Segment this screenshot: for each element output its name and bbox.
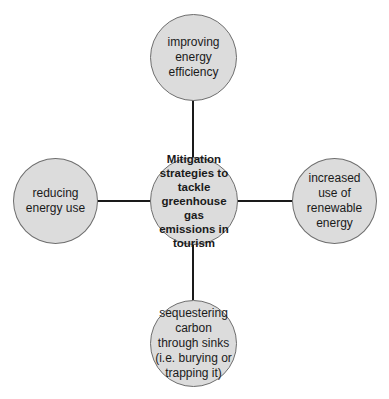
node-increased-renewable-energy: increased use of renewable energy bbox=[292, 158, 377, 244]
node-label: sequestering carbon through sinks (i.e. … bbox=[151, 306, 236, 381]
center-node: Mitigation strategies to tackle greenhou… bbox=[150, 157, 238, 245]
node-improving-energy-efficiency: improving energy efficiency bbox=[150, 14, 237, 101]
node-reducing-energy-use: reducing energy use bbox=[13, 158, 98, 244]
node-label: increased use of renewable energy bbox=[296, 171, 374, 231]
node-label: improving energy efficiency bbox=[160, 35, 228, 80]
node-label: reducing energy use bbox=[14, 186, 97, 216]
center-node-label: Mitigation strategies to tackle greenhou… bbox=[151, 152, 237, 250]
node-sequestering-carbon: sequestering carbon through sinks (i.e. … bbox=[150, 300, 237, 387]
